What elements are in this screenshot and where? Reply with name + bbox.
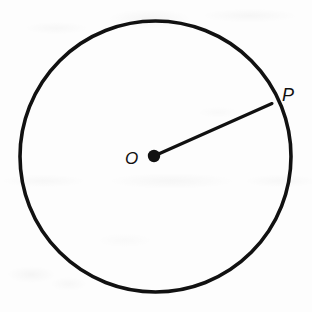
center-label-O: O [125,150,138,167]
point-label-P: P [282,86,294,104]
center-point-dot [148,150,160,162]
circle-diagram-svg [0,0,312,312]
figure-canvas: O P [0,0,312,312]
radius-segment-OP [154,104,272,157]
